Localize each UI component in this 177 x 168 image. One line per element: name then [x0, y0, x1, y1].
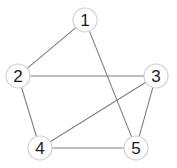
- graph-edge: [89, 31, 131, 137]
- node-label: 3: [151, 67, 160, 86]
- node-label: 1: [80, 11, 89, 30]
- edge-layer: [22, 28, 153, 148]
- graph-node-1: 1: [73, 8, 97, 32]
- graph-node-5: 5: [124, 136, 148, 160]
- graph-node-4: 4: [28, 136, 52, 160]
- graph-edge: [22, 87, 37, 136]
- graph-edge: [50, 82, 146, 141]
- graph-edge: [27, 28, 76, 69]
- node-label: 5: [131, 139, 140, 158]
- node-label: 2: [13, 67, 22, 86]
- graph-edge: [139, 88, 153, 137]
- graph-node-2: 2: [6, 64, 30, 88]
- graph-canvas: 12345: [0, 0, 177, 168]
- node-label: 4: [35, 139, 44, 158]
- graph-diagram: 12345: [0, 0, 177, 168]
- graph-node-3: 3: [144, 64, 168, 88]
